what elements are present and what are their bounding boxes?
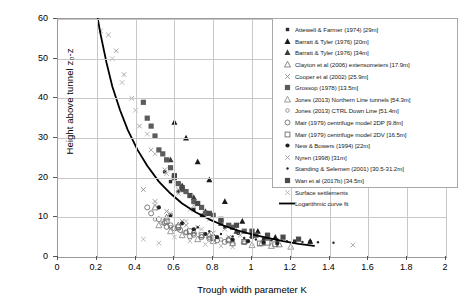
y-axis-tick-mark [53, 177, 57, 178]
data-point [196, 226, 198, 228]
legend-marker-icon [279, 83, 295, 92]
data-point [153, 152, 158, 157]
x-axis-title: Trough width parameter K [57, 284, 447, 295]
data-point [284, 178, 289, 183]
legend-item[interactable]: Clayton et al (2006) extensometers [17.9… [279, 59, 453, 71]
data-point [265, 240, 270, 245]
x-axis-tick-mark [135, 256, 136, 260]
data-point [195, 159, 201, 165]
legend-item[interactable]: Barratt & Tyler (1976) [20m] [279, 36, 453, 48]
data-point [220, 233, 222, 235]
legend-item[interactable]: Standing & Selemen (2001) [30.5-31.2m] [279, 163, 453, 175]
y-axis-tick-label: 0 [18, 251, 48, 261]
legend-item-label: Attewell & Farmer (1974) [29m] [295, 26, 378, 33]
data-point [285, 155, 290, 160]
legend-item-label: Mair (1979) centrifuge model 2DV [16.5m] [295, 131, 406, 138]
data-point [284, 96, 290, 102]
data-point [222, 198, 228, 204]
legend-marker-icon [279, 118, 295, 127]
legend-item-label: New & Bowers (1994) [22m] [295, 142, 370, 149]
data-point [149, 124, 154, 129]
y-axis-tick-mark [53, 97, 57, 98]
legend-marker-icon [279, 72, 295, 81]
y-axis-tick-mark [53, 58, 57, 59]
x-axis-tick-label: 1.6 [361, 262, 374, 272]
y-axis-tick-mark [53, 137, 57, 138]
data-point [332, 242, 334, 244]
legend-item[interactable]: Jones (2013) Northern Line tunnels [54.3… [279, 94, 453, 106]
data-point [122, 72, 127, 77]
y-axis-tick-mark [53, 18, 57, 19]
x-axis-tick-mark [212, 256, 213, 260]
gridline-horizontal [58, 217, 446, 218]
data-point [149, 148, 154, 153]
y-axis-tick-label: 40 [18, 92, 48, 102]
legend-item-label: Standing & Selemen (2001) [30.5-31.2m] [295, 165, 404, 172]
legend-marker-icon [279, 153, 295, 162]
x-axis-tick-mark [329, 256, 330, 260]
data-point [255, 238, 257, 240]
data-point [168, 165, 173, 170]
legend-item-label: Wan et al (2017b) [34.5m] [295, 177, 364, 184]
data-point [262, 241, 266, 245]
legend-marker-icon [279, 25, 295, 34]
legend-marker-icon [279, 141, 295, 150]
data-point [219, 244, 224, 249]
legend-marker-icon [279, 164, 295, 173]
legend-item[interactable]: Cooper et al (2002) [25.9m] [279, 70, 453, 82]
data-point [351, 243, 356, 248]
legend-item[interactable]: Mair (1979) centrifuge model 2DV [16.5m] [279, 128, 453, 140]
data-point [284, 85, 289, 90]
legend-item[interactable]: Jones (2013) CTRL Down Line [51.4m] [279, 105, 453, 117]
legend-item[interactable]: Barratt & Tyler (1976) [34m] [279, 47, 453, 59]
data-point [188, 239, 193, 244]
data-point [286, 168, 288, 170]
x-axis-tick-label: 0.6 [167, 262, 180, 272]
x-axis-tick-mark [173, 256, 174, 260]
y-axis-tick-label: 30 [18, 132, 48, 142]
data-point [246, 239, 250, 243]
legend-item[interactable]: Surface settlements [279, 186, 453, 198]
legend-item[interactable]: Wan et al (2017b) [34.5m] [279, 175, 453, 187]
legend-item-label: Jones (2013) CTRL Down Line [51.4m] [295, 107, 399, 114]
data-point [137, 124, 142, 129]
data-point [180, 185, 185, 190]
data-point [141, 100, 146, 105]
legend: Attewell & Farmer (1974) [29m]Barratt & … [272, 18, 458, 188]
legend-item[interactable]: New & Bowers (1994) [22m] [279, 140, 453, 152]
legend-item-label: Surface settlements [295, 189, 348, 196]
legend-item-label: Barratt & Tyler (1976) [34m] [295, 49, 369, 56]
legend-item-label: Logarithmic curve fit [295, 200, 348, 207]
x-axis-tick-label: 1 [248, 262, 253, 272]
y-axis-tick-label: 20 [18, 172, 48, 182]
legend-item-label: Nyren (1998) [31m] [295, 154, 347, 161]
data-point [145, 205, 150, 210]
data-point [187, 193, 192, 198]
legend-marker-icon [279, 188, 295, 197]
data-point [208, 230, 210, 232]
data-point [317, 241, 319, 243]
data-point [169, 180, 172, 183]
data-point [243, 237, 245, 239]
legend-marker-icon [279, 130, 295, 139]
data-point [149, 211, 154, 216]
data-point [307, 238, 313, 244]
data-point [203, 242, 208, 247]
legend-item[interactable]: Logarithmic curve fit [279, 198, 453, 210]
data-point [231, 235, 233, 237]
legend-item[interactable]: Nyren (1998) [31m] [279, 152, 453, 164]
legend-item[interactable]: Attewell & Farmer (1974) [29m] [279, 24, 453, 36]
data-point [141, 237, 146, 242]
data-point [296, 237, 301, 242]
data-point [157, 241, 162, 246]
legend-item[interactable]: Grossop (1978) [13.5m] [279, 82, 453, 94]
data-point [153, 199, 158, 204]
data-point [285, 132, 290, 137]
data-point [120, 80, 125, 85]
legend-item[interactable]: Mair (1979) centrifuge model 2DP [9.8m] [279, 117, 453, 129]
legend-item-label: Grossop (1978) [13.5m] [295, 84, 358, 91]
data-point [195, 201, 200, 206]
data-point [238, 233, 243, 238]
legend-item-label: Mair (1979) centrifuge model 2DP [9.8m] [295, 119, 403, 126]
data-point [203, 232, 207, 236]
